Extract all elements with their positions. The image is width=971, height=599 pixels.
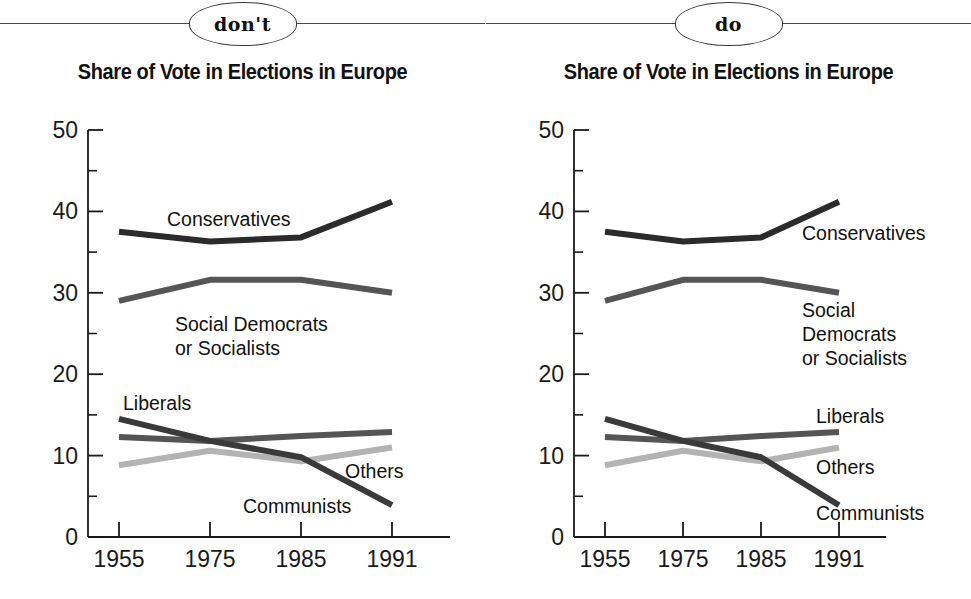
label-communists: Communists xyxy=(816,502,925,524)
label-others: Others xyxy=(345,460,404,482)
label-liberals: Liberals xyxy=(123,392,192,414)
y-tick-10: 10 xyxy=(538,443,564,469)
y-minor-ticks xyxy=(88,171,97,497)
x-tick-1975: 1975 xyxy=(657,546,708,572)
x-tick-1985: 1985 xyxy=(735,546,786,572)
label-conservatives: Conservatives xyxy=(802,222,926,244)
x-ticks xyxy=(605,522,839,537)
header-band: don't do xyxy=(0,0,971,48)
y-tick-0: 0 xyxy=(65,524,78,550)
x-tick-1975: 1975 xyxy=(184,546,235,572)
label-social-democrats-2: or Socialists xyxy=(175,337,280,359)
y-tick-0: 0 xyxy=(551,524,564,550)
chart-plot-dont: 50 40 30 20 10 0 1955 1975 1985 1991 xyxy=(0,48,485,599)
y-tick-50: 50 xyxy=(52,117,78,143)
header-half-dont: don't xyxy=(0,0,485,48)
x-tick-1955: 1955 xyxy=(579,546,630,572)
y-tick-20: 20 xyxy=(52,361,78,387)
series-line-social-democrats xyxy=(119,280,392,301)
y-tick-30: 30 xyxy=(538,280,564,306)
y-minor-ticks xyxy=(574,171,583,497)
label-liberals: Liberals xyxy=(816,405,885,427)
header-half-do: do xyxy=(486,0,971,48)
label-social-democrats-1: Social xyxy=(802,299,855,321)
x-tick-1991: 1991 xyxy=(813,546,864,572)
y-tick-50: 50 xyxy=(538,117,564,143)
label-social-democrats-1: Social Democrats xyxy=(175,313,328,335)
badge-dont: don't xyxy=(189,2,297,46)
y-tick-40: 40 xyxy=(538,198,564,224)
x-tick-1985: 1985 xyxy=(275,546,326,572)
comparison-figure: don't do Share of Vote in Elections in E… xyxy=(0,0,971,599)
chart-plot-do: 50 40 30 20 10 0 1955 1975 1985 1991 xyxy=(486,48,971,599)
label-conservatives: Conservatives xyxy=(167,208,291,230)
badge-dont-label: don't xyxy=(214,15,271,34)
x-tick-1991: 1991 xyxy=(366,546,417,572)
x-tick-1955: 1955 xyxy=(93,546,144,572)
y-tick-20: 20 xyxy=(538,361,564,387)
y-tick-10: 10 xyxy=(52,443,78,469)
badge-do-label: do xyxy=(715,15,742,34)
badge-do: do xyxy=(675,2,783,46)
panel-do: Share of Vote in Elections in Europe xyxy=(486,48,971,599)
label-others: Others xyxy=(816,456,875,478)
label-social-democrats-2: Democrats xyxy=(802,323,897,345)
y-tick-30: 30 xyxy=(52,280,78,306)
series-line-social-democrats xyxy=(605,280,839,301)
x-ticks xyxy=(119,522,392,537)
label-social-democrats-3: or Socialists xyxy=(802,347,907,369)
series-line-liberals xyxy=(119,432,392,441)
series-line-liberals xyxy=(605,432,839,441)
label-communists: Communists xyxy=(243,495,352,517)
panel-dont: Share of Vote in Elections in Europe xyxy=(0,48,485,599)
y-tick-40: 40 xyxy=(52,198,78,224)
